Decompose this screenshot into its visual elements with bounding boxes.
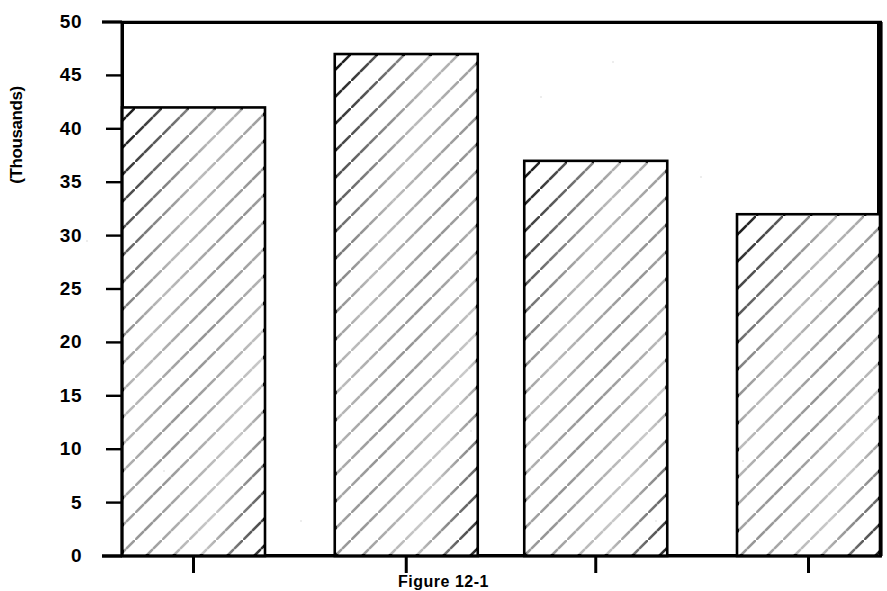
scan-speck	[392, 200, 394, 202]
bar	[737, 214, 880, 556]
figure-caption: Figure 12-1	[0, 573, 887, 591]
bar-chart: (Thousands) 05101520253035404550	[0, 0, 887, 591]
scan-speck	[700, 176, 702, 178]
bar-scan-dropout	[124, 109, 263, 554]
scan-speck	[300, 520, 302, 522]
bar-scan-dropout	[526, 163, 665, 554]
scan-speck	[470, 430, 472, 432]
scan-speck	[655, 520, 657, 522]
bar	[335, 54, 478, 556]
scan-speck	[247, 318, 249, 320]
bar	[524, 161, 667, 556]
bar-scan-dropout	[739, 216, 878, 554]
bars-group	[122, 54, 880, 556]
scan-speck	[540, 96, 542, 98]
scan-speck	[612, 61, 614, 63]
bar-scan-dropout	[337, 56, 476, 554]
scan-speck	[86, 240, 88, 242]
plot-vector-layer	[0, 0, 887, 591]
bar	[122, 107, 265, 556]
scan-speck	[163, 470, 165, 472]
scan-speck	[742, 460, 744, 462]
scan-speck	[820, 300, 822, 302]
